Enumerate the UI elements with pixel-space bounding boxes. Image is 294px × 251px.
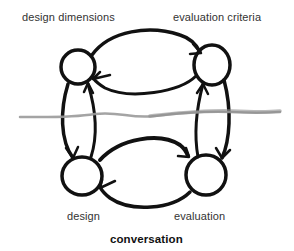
edge-top-upper	[92, 30, 200, 55]
edge-left-outer	[63, 84, 73, 158]
edge-right-inner	[196, 84, 203, 157]
edge-bottom-lower	[100, 187, 190, 207]
label-evaluation: evaluation	[174, 210, 225, 222]
caption-conversation: conversation	[110, 233, 183, 245]
edge-bottom-upper	[100, 138, 188, 160]
edge-left-inner	[88, 84, 95, 157]
node-evaluation	[186, 155, 226, 195]
label-design: design	[67, 210, 100, 222]
node-evaluation-criteria	[194, 45, 230, 85]
node-design-dimensions	[61, 50, 95, 84]
node-design	[62, 157, 102, 195]
label-design-dimensions: design dimensions	[22, 11, 115, 23]
label-evaluation-criteria: evaluation criteria	[173, 11, 261, 23]
diagram-canvas	[0, 0, 294, 251]
edge-top-lower	[93, 76, 196, 94]
edge-right-outer	[222, 80, 229, 158]
